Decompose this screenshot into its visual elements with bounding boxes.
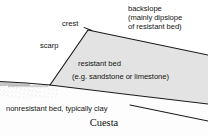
label-backslope-line1: backslope — [128, 4, 182, 13]
figure-caption: Cuesta — [0, 117, 208, 128]
label-backslope: backslope (mainly dipslope of resistant … — [128, 4, 182, 32]
label-nonresistant-bed: nonresistant bed, typically clay — [6, 104, 107, 113]
label-scarp: scarp — [40, 41, 58, 50]
label-resistant-bed: resistant bed — [78, 59, 121, 68]
label-backslope-line2: (mainly dipslope — [128, 13, 182, 22]
label-resistant-bed-examples: (e.g. sandstone or limestone) — [72, 72, 169, 81]
label-backslope-line3: of resistant bed) — [128, 22, 182, 31]
label-crest: crest — [62, 19, 78, 28]
cuesta-diagram-figure: backslope (mainly dipslope of resistant … — [0, 0, 208, 136]
